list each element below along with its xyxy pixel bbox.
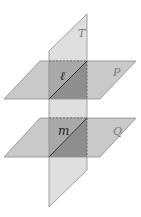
- intersecting-planes-diagram: T P Q ℓ m: [0, 0, 141, 217]
- plane-q-label: Q: [113, 125, 122, 138]
- line-l-label: ℓ: [60, 69, 65, 83]
- plane-t: [49, 14, 87, 207]
- line-m-label: m: [58, 124, 69, 138]
- plane-p-label: P: [112, 66, 121, 79]
